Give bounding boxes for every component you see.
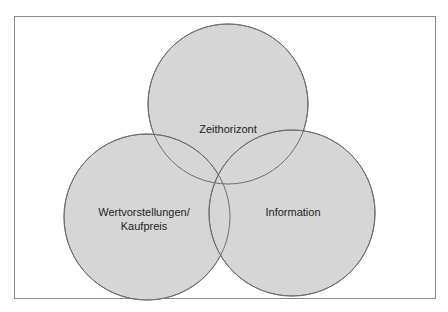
label-zeithorizont: Zeithorizont (199, 123, 256, 135)
label-information: Information (265, 206, 320, 218)
label-wertvorstellungen-line2: Kaufpreis (121, 220, 168, 232)
venn-diagram: Zeithorizont Wertvorstellungen/ Kaufprei… (0, 0, 448, 312)
label-wertvorstellungen-line1: Wertvorstellungen/ (98, 206, 190, 218)
